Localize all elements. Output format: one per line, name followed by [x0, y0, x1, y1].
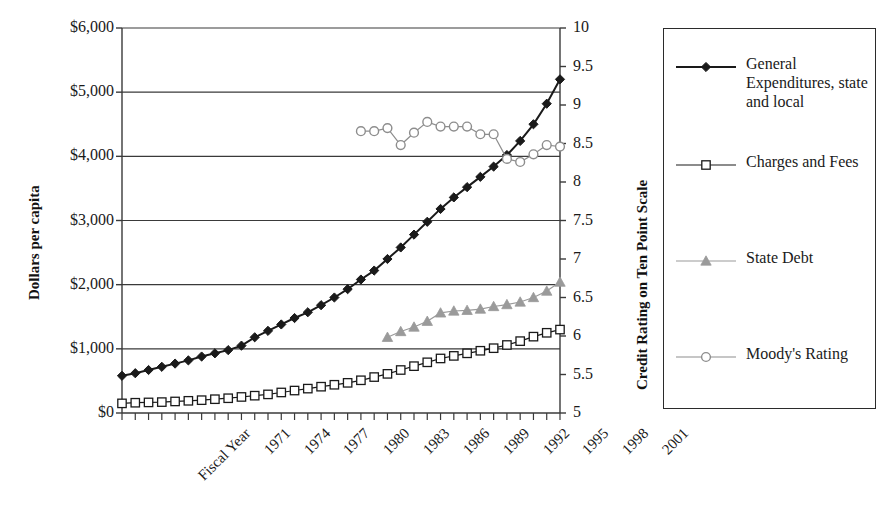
y-axis-left-tick-label: $0 — [30, 403, 114, 421]
y-axis-left-tick-label: $1,000 — [30, 339, 114, 357]
legend-item-label: State Debt — [746, 248, 886, 267]
y-axis-right-tick-label: 8.5 — [573, 134, 613, 152]
y-axis-left-tick-label: $2,000 — [30, 275, 114, 293]
legend-marker-open-square-icon — [674, 157, 738, 173]
y-axis-right-tick-label: 9 — [573, 95, 613, 113]
y-axis-right-tick-label: 6 — [573, 326, 613, 344]
y-axis-right-tick-label: 5.5 — [573, 365, 613, 383]
legend-item-label: Moody's Rating — [746, 344, 886, 363]
y-axis-right-tick-label: 8 — [573, 172, 613, 190]
y-axis-left-tick-label: $6,000 — [30, 18, 114, 36]
y-axis-right-tick-label: 6.5 — [573, 288, 613, 306]
legend-item-label: Charges and Fees — [746, 152, 886, 171]
legend-marker-open-circle-icon — [674, 349, 738, 365]
y-axis-right-title: Credit Rating on Ten Point Scale — [634, 180, 651, 390]
y-axis-left-tick-label: $5,000 — [30, 82, 114, 100]
legend-item-label: General Expenditures, state and local — [746, 54, 886, 111]
y-axis-left-tick-label: $3,000 — [30, 211, 114, 229]
chart-figure: Dollars per capita Credit Rating on Ten … — [0, 0, 888, 527]
y-axis-right-tick-label: 9.5 — [573, 57, 613, 75]
y-axis-right-tick-label: 5 — [573, 403, 613, 421]
y-axis-right-tick-label: 7 — [573, 249, 613, 267]
y-axis-right-tick-label: 7.5 — [573, 211, 613, 229]
legend-marker-filled-triangle-icon — [674, 253, 738, 269]
y-axis-left-tick-label: $4,000 — [30, 146, 114, 164]
chart-legend: General Expenditures, state and localCha… — [663, 28, 876, 409]
y-axis-right-tick-label: 10 — [573, 18, 613, 36]
legend-marker-filled-diamond-icon — [674, 59, 738, 75]
